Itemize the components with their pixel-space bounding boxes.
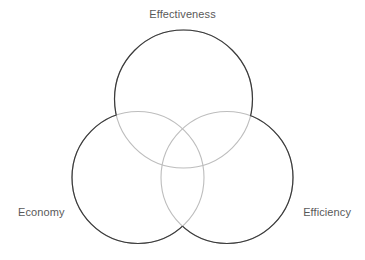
circle-efficiency [161, 112, 293, 244]
circle-effectiveness [115, 30, 253, 168]
circle-effectiveness-faint [115, 30, 253, 168]
venn-circles-graphic [0, 0, 365, 260]
circle-economy-faint [72, 112, 204, 244]
circle-economy [72, 112, 204, 244]
label-economy: Economy [18, 206, 65, 219]
venn-diagram: Effectiveness Economy Efficiency [0, 0, 365, 260]
label-effectiveness: Effectiveness [0, 8, 365, 21]
venn-overlap-arcs [72, 30, 293, 244]
label-efficiency: Efficiency [303, 206, 351, 219]
circle-efficiency-faint [161, 112, 293, 244]
